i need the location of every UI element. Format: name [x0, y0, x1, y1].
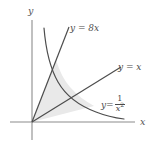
label-curve-inverse-square: y=1x2 — [101, 96, 125, 114]
label-line-x: y = x — [118, 63, 141, 72]
x-axis-label: x — [140, 117, 145, 127]
label-line-8x: y = 8x — [70, 24, 99, 33]
denominator-exponent: 2 — [120, 101, 124, 108]
shaded-region — [32, 60, 94, 122]
label-curve-equals: = — [106, 100, 114, 110]
calculus-figure: y x y = 8x y = x y=1x2 — [0, 0, 158, 148]
y-axis-label: y — [28, 6, 33, 16]
fraction-denominator: x2 — [115, 105, 125, 113]
fraction-one-over-x-squared: 1x2 — [115, 95, 125, 113]
